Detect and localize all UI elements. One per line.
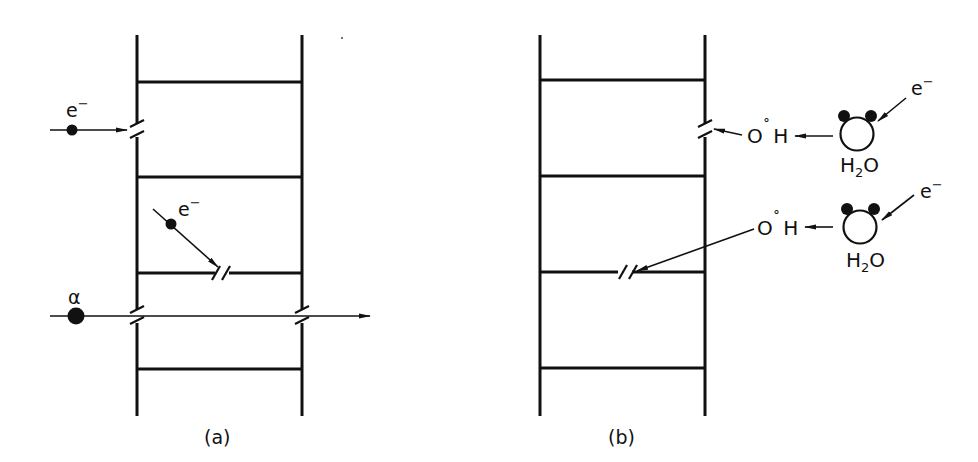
oxygen-atom bbox=[844, 211, 877, 244]
electron-b2-arrow bbox=[882, 195, 914, 220]
electron-a2-label: e− bbox=[178, 200, 201, 219]
electron-b2-label: e− bbox=[920, 182, 943, 201]
ladder-b bbox=[540, 35, 705, 416]
water-b1-label: H2O bbox=[840, 155, 879, 175]
water-molecule-b1 bbox=[838, 110, 877, 151]
hydrogen-atom bbox=[841, 203, 853, 215]
hydrogen-atom bbox=[865, 110, 877, 122]
break-mark bbox=[222, 266, 230, 280]
water-molecule-b2 bbox=[841, 203, 880, 244]
break-marks-b bbox=[619, 120, 712, 279]
break-mark bbox=[698, 131, 712, 138]
electron-b1-label: e− bbox=[911, 79, 934, 98]
stray-dot bbox=[341, 37, 343, 39]
oxygen-atom bbox=[841, 118, 874, 151]
hydrogen-atom bbox=[838, 110, 850, 122]
break-mark bbox=[130, 317, 144, 324]
break-mark bbox=[130, 131, 144, 138]
hydroxyl-radical-b1: O˚H bbox=[747, 126, 788, 146]
hydroxyl-radical-b2: O˚H bbox=[757, 218, 798, 238]
figure-canvas: e− e− α (a) (b) e− O˚H H2O e− O˚H H2O bbox=[0, 0, 978, 462]
alpha-particle bbox=[50, 308, 370, 325]
panel-a-label: (a) bbox=[204, 428, 230, 447]
electron-b1-arrow bbox=[878, 98, 906, 121]
electron-dot bbox=[166, 219, 177, 230]
radical-b1-arrow bbox=[714, 129, 742, 135]
diagram-svg bbox=[0, 0, 978, 462]
alpha-label: α bbox=[68, 288, 81, 307]
panel-b-label: (b) bbox=[608, 428, 635, 447]
electron-a1-label: e− bbox=[66, 101, 89, 120]
break-mark bbox=[619, 265, 627, 279]
break-marks-a bbox=[130, 120, 309, 324]
water-b2-label: H2O bbox=[846, 250, 885, 270]
electron-a1 bbox=[50, 125, 127, 136]
alpha-dot bbox=[68, 308, 85, 325]
electron-dot bbox=[67, 125, 78, 136]
hydrogen-atom bbox=[868, 203, 880, 215]
radical-b2-arrow bbox=[637, 229, 754, 271]
ladder-a bbox=[137, 35, 302, 416]
break-mark bbox=[295, 317, 309, 324]
